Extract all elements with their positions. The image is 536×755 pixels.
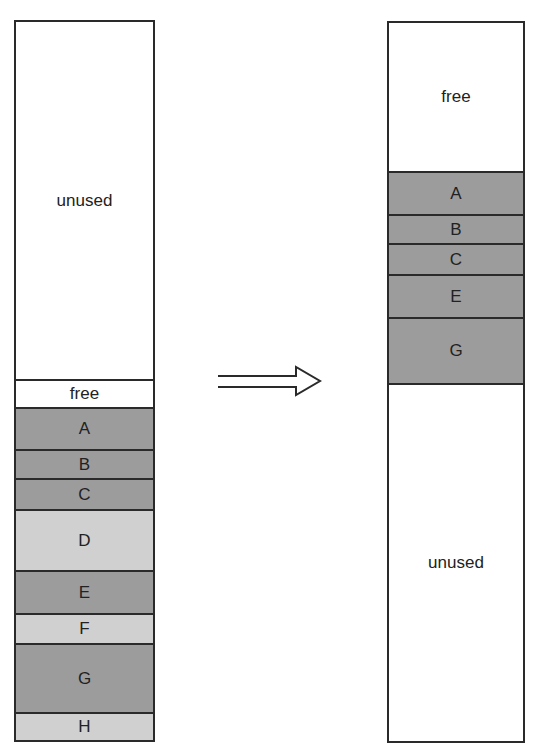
transform-arrow-icon	[214, 362, 326, 400]
memory-block-b: B	[389, 214, 523, 243]
memory-block-a: A	[16, 407, 153, 449]
memory-block-f: F	[16, 613, 153, 643]
memory-block-unused: unused	[389, 383, 523, 741]
memory-block-g: G	[389, 317, 523, 383]
memory-after-column: freeABCEGunused	[387, 21, 525, 743]
memory-block-b: B	[16, 449, 153, 478]
memory-block-free: free	[16, 379, 153, 407]
memory-block-c: C	[16, 478, 153, 509]
memory-block-h: H	[16, 712, 153, 740]
memory-block-e: E	[16, 570, 153, 613]
memory-before-column: unusedfreeABCDEFGH	[14, 20, 155, 742]
memory-block-g: G	[16, 643, 153, 712]
memory-block-a: A	[389, 171, 523, 214]
memory-block-unused: unused	[16, 22, 153, 379]
memory-block-e: E	[389, 274, 523, 317]
memory-block-d: D	[16, 509, 153, 570]
memory-block-c: C	[389, 243, 523, 274]
memory-block-free: free	[389, 23, 523, 171]
